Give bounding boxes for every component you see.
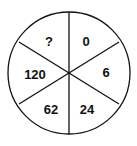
segment-bottom-left: 62 [44, 102, 58, 117]
segment-top-right: 0 [82, 34, 89, 49]
segment-left: 120 [24, 67, 46, 82]
segment-right: 6 [102, 65, 109, 80]
number-wheel-diagram: ? 0 6 24 62 120 [0, 0, 137, 146]
segment-top-left: ? [45, 34, 53, 49]
segment-bottom-right: 24 [80, 102, 95, 117]
